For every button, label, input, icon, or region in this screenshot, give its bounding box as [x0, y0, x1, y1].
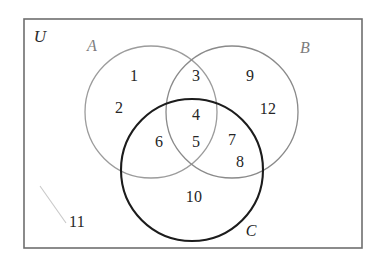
venn-element: 1	[130, 67, 138, 85]
venn-element: 5	[192, 133, 200, 151]
venn-element: 2	[115, 99, 123, 117]
venn-diagram-canvas	[0, 0, 385, 262]
venn-element: 3	[192, 67, 200, 85]
venn-element: 4	[192, 106, 200, 124]
set-label-b: B	[300, 39, 310, 57]
venn-element: 6	[155, 133, 163, 151]
venn-element: 12	[260, 100, 276, 118]
universal-set-label: U	[34, 27, 46, 47]
set-label-a: A	[87, 37, 97, 55]
venn-element: 11	[69, 213, 85, 231]
venn-element: 10	[186, 188, 202, 206]
venn-element: 8	[236, 153, 244, 171]
set-label-c: C	[246, 222, 257, 240]
venn-element: 9	[246, 67, 254, 85]
venn-diagram-figure: U A B C 123456789121011	[0, 0, 385, 262]
venn-element: 7	[228, 131, 236, 149]
